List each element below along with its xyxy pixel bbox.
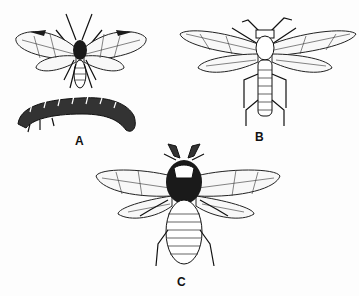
insect-illustration — [0, 0, 359, 296]
insect-b — [180, 18, 356, 126]
label-a: A — [75, 134, 84, 148]
insect-a-adult — [16, 14, 146, 88]
insect-c — [96, 144, 280, 266]
label-c: C — [177, 275, 186, 289]
insect-a-larva — [18, 96, 135, 132]
label-b: B — [255, 130, 264, 144]
figure-canvas: A B C — [0, 0, 359, 296]
